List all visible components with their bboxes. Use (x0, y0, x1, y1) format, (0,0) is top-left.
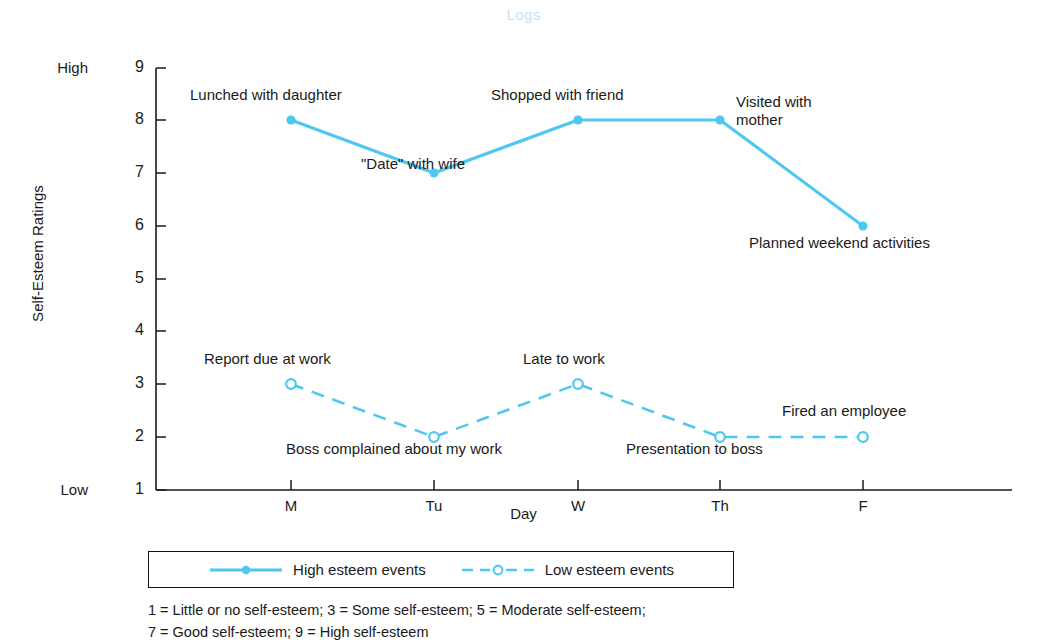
annotation-high-shopped-with-friend: Shopped with friend (491, 86, 624, 104)
footnote-line-1: 1 = Little or no self-esteem; 3 = Some s… (148, 600, 1008, 622)
series-low-esteem-markers (286, 379, 868, 442)
y-tick-label-1: 1 (118, 480, 144, 498)
y-axis-ticks (156, 68, 166, 490)
y-tick-label-7: 7 (118, 163, 144, 181)
y-tick-label-2: 2 (118, 427, 144, 445)
annotation-low-fired-an-employee: Fired an employee (782, 402, 906, 420)
legend-item-low-esteem: Low esteem events (460, 561, 674, 578)
annotation-high-lunched-with-daughter: Lunched with daughter (190, 86, 342, 104)
x-axis-ticks (291, 480, 863, 490)
annotation-low-late-to-work: Late to work (523, 350, 605, 368)
annotation-high-date-with-wife: "Date" with wife (361, 155, 465, 173)
y-axis-high-label: High (28, 59, 88, 76)
chart-footnote: 1 = Little or no self-esteem; 3 = Some s… (148, 600, 1008, 644)
legend-swatch-dashed-open-marker (460, 562, 536, 578)
y-tick-label-5: 5 (118, 269, 144, 287)
series-low-esteem-line (291, 384, 863, 437)
y-tick-label-9: 9 (118, 58, 144, 76)
annotation-low-report-due-at-work: Report due at work (204, 350, 331, 368)
y-axis-low-label: Low (28, 481, 88, 498)
y-tick-label-6: 6 (118, 216, 144, 234)
x-axis-title: Day (0, 505, 1047, 522)
y-tick-label-8: 8 (118, 110, 144, 128)
plot-area: Self-Esteem Ratings High Low 9 8 7 6 5 4… (0, 0, 1047, 530)
legend-label-low-esteem: Low esteem events (545, 561, 674, 578)
annotation-low-presentation-to-boss: Presentation to boss (626, 440, 763, 458)
footnote-line-2: 7 = Good self-esteem; 9 = High self-este… (148, 622, 1008, 644)
annotation-high-planned-weekend-activities: Planned weekend activities (749, 234, 930, 252)
y-axis-title: Self-Esteem Ratings (29, 154, 46, 354)
chart-legend: High esteem events Low esteem events (148, 551, 734, 588)
legend-item-high-esteem: High esteem events (208, 561, 426, 578)
annotation-high-visited-with-mother: Visited with mother (736, 93, 812, 130)
y-tick-label-4: 4 (118, 321, 144, 339)
chart-plot-svg (0, 0, 1047, 530)
annotation-low-boss-complained: Boss complained about my work (286, 440, 502, 458)
legend-swatch-solid-filled-marker (208, 562, 284, 578)
y-tick-label-3: 3 (118, 374, 144, 392)
legend-label-high-esteem: High esteem events (293, 561, 426, 578)
